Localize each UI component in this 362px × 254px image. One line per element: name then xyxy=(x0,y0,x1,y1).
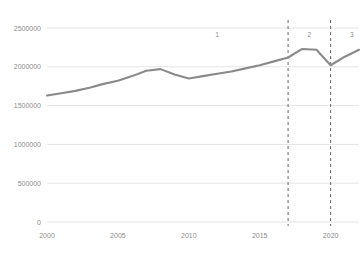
line-chart: 05000001000000150000020000002500000 2000… xyxy=(0,0,362,254)
y-axis-tick-label: 500000 xyxy=(18,180,41,187)
y-axis-tick-label: 2500000 xyxy=(14,25,41,32)
region-label-2: 2 xyxy=(308,31,312,38)
chart-container: 05000001000000150000020000002500000 2000… xyxy=(0,0,362,254)
x-axis-tick-label: 2020 xyxy=(323,232,339,239)
region-label-1: 1 xyxy=(215,31,219,38)
x-axis-tick-label: 2015 xyxy=(252,232,268,239)
x-axis-tick-label: 2010 xyxy=(181,232,197,239)
x-axis-tick-label: 2005 xyxy=(110,232,126,239)
region-label-3: 3 xyxy=(350,31,354,38)
y-axis-tick-label: 2000000 xyxy=(14,63,41,70)
x-axis-tick-label: 2000 xyxy=(39,232,55,239)
y-axis-tick-label: 1500000 xyxy=(14,102,41,109)
y-axis-tick-label: 0 xyxy=(37,219,41,226)
y-axis-tick-label: 1000000 xyxy=(14,141,41,148)
